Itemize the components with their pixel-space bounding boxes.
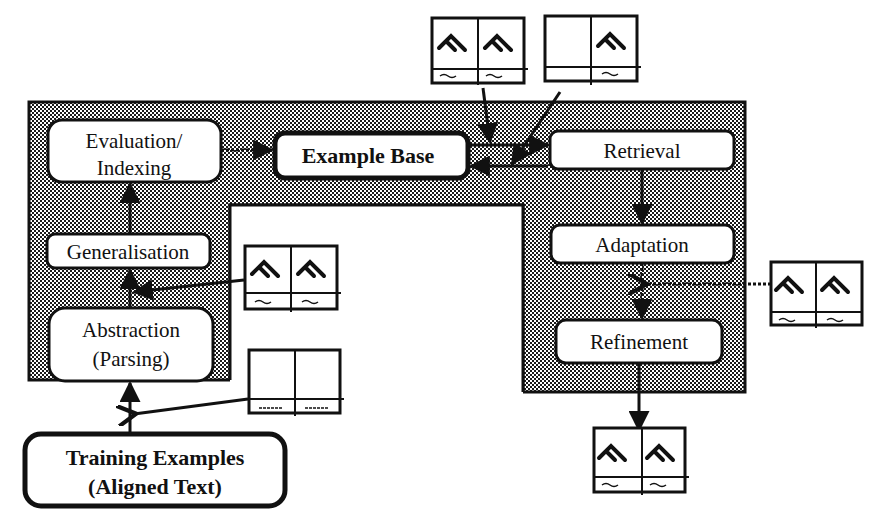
generalisation-label: Generalisation <box>67 240 190 264</box>
evaluation-line1: Evaluation/ <box>86 129 183 153</box>
example-card-query <box>545 16 641 85</box>
example-card-raw <box>249 350 344 416</box>
example-base-label: Example Base <box>302 143 435 168</box>
architecture-diagram: Evaluation/ Indexing Example Base Retrie… <box>0 0 884 530</box>
example-card-output <box>594 428 689 495</box>
node-refinement[interactable]: Refinement <box>556 320 722 363</box>
training-line1: Training Examples <box>66 445 245 470</box>
abstraction-line1: Abstraction <box>82 318 180 342</box>
refinement-label: Refinement <box>590 330 688 354</box>
abstraction-line2: (Parsing) <box>93 347 170 371</box>
retrieval-label: Retrieval <box>604 139 681 163</box>
node-retrieval[interactable]: Retrieval <box>550 131 734 169</box>
example-card-adaptation <box>771 262 862 328</box>
node-evaluation-indexing[interactable]: Evaluation/ Indexing <box>48 120 221 182</box>
node-example-base[interactable]: Example Base <box>275 133 468 178</box>
example-card-generalised <box>245 246 341 312</box>
example-card-stored <box>432 18 528 85</box>
training-line2: (Aligned Text) <box>88 474 222 499</box>
evaluation-line2: Indexing <box>97 156 172 180</box>
arrow-raw-card <box>134 399 248 414</box>
node-training-examples[interactable]: Training Examples (Aligned Text) <box>25 434 285 506</box>
node-adaptation[interactable]: Adaptation <box>551 225 734 263</box>
node-abstraction-parsing[interactable]: Abstraction (Parsing) <box>49 308 213 381</box>
node-generalisation[interactable]: Generalisation <box>47 234 210 268</box>
adaptation-label: Adaptation <box>595 233 689 257</box>
